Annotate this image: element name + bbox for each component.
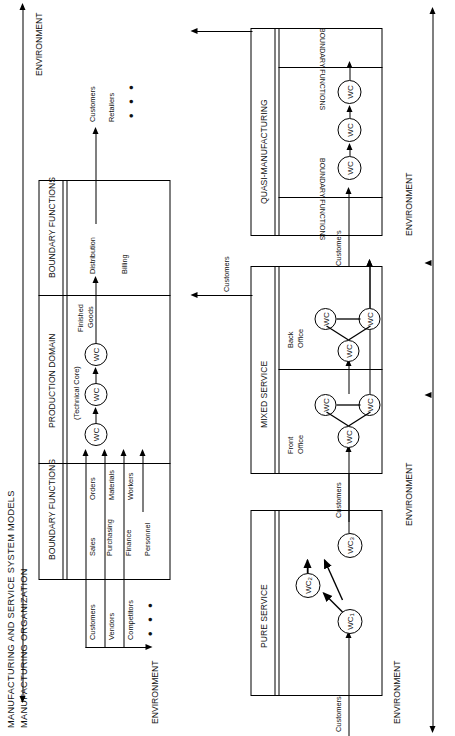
boundary-function-sales: Sales bbox=[88, 538, 96, 557]
figure-title: MANUFACTURING AND SERVICE SYSTEM MODELS bbox=[6, 490, 16, 728]
environment-actor-vendors: Vendors bbox=[107, 613, 115, 640]
quasi-customers-label: Customers bbox=[334, 230, 342, 266]
flow-label-orders: Orders bbox=[88, 477, 96, 500]
panel-divider-2 bbox=[38, 295, 170, 296]
quasi-boundary-functions-in: BOUNDARY FUNCTIONS bbox=[318, 158, 325, 238]
pure-service-links bbox=[250, 510, 382, 696]
environment-actor-competitors: Competitors bbox=[126, 600, 134, 640]
environment-label-right-bottom: ENVIRONMENT bbox=[404, 462, 413, 526]
work-center-label: WC bbox=[91, 428, 100, 441]
quasi-manufacturing-frame bbox=[250, 28, 382, 236]
work-center-label: WC bbox=[345, 161, 354, 174]
boundary-function-personnel: Personnel bbox=[143, 523, 151, 556]
boundary-function-purchasing: Purchasing bbox=[105, 519, 113, 556]
work-center-quasi-3: WC bbox=[337, 80, 361, 104]
flow-label-finished: Finished bbox=[76, 304, 84, 332]
flow-label-goods: Goods bbox=[86, 306, 94, 328]
flow-label-workers: Workers bbox=[126, 473, 134, 500]
quasi-boundary-divider-right bbox=[278, 67, 382, 68]
mixed-service-customers-in-label: Customers bbox=[334, 482, 342, 518]
flow-label-materials: Materials bbox=[107, 470, 115, 500]
work-center-label: WC bbox=[91, 388, 100, 401]
work-center-quasi-1: WC bbox=[337, 156, 361, 180]
work-center-quasi-2: WC bbox=[337, 118, 361, 142]
mixed-service-customers-out-label: Customers bbox=[222, 256, 230, 292]
panel-label-inbound-boundary: BOUNDARY FUNCTIONS bbox=[47, 459, 56, 560]
environment-actors-ellipsis-out: • • • bbox=[124, 82, 137, 118]
boundary-function-finance: Finance bbox=[124, 530, 132, 556]
work-center-label: WC bbox=[345, 85, 354, 98]
pure-service-customers-label: Customers bbox=[334, 696, 342, 732]
environment-actor-customers-out: Customers bbox=[88, 86, 96, 122]
quasi-manufacturing-title: QUASI-MANUFACTURING bbox=[259, 99, 268, 204]
quasi-boundary-divider-left bbox=[278, 197, 382, 198]
technical-core-label: (Technical Core) bbox=[72, 366, 80, 420]
environment-label-right-middle: ENVIRONMENT bbox=[404, 172, 413, 236]
environment-actor-customers: Customers bbox=[88, 604, 96, 640]
environment-label-right-top: ENVIRONMENT bbox=[34, 12, 43, 76]
environment-actors-ellipsis: • • • bbox=[143, 600, 156, 636]
environment-label-left-top: ENVIRONMENT bbox=[150, 660, 159, 724]
figure-canvas: MANUFACTURING AND SERVICE SYSTEM MODELS … bbox=[0, 0, 455, 736]
boundary-function-distribution: Distribution bbox=[88, 237, 96, 274]
panel-label-production-domain: PRODUCTION DOMAIN bbox=[47, 333, 56, 428]
panel-caption-rule-2 bbox=[66, 180, 67, 580]
panel-caption-rule bbox=[62, 180, 63, 580]
work-center-label: WC bbox=[345, 123, 354, 136]
work-center-mfg-2: WC bbox=[84, 383, 107, 406]
boundary-function-billing: Billing bbox=[120, 254, 128, 274]
work-center-label: WC bbox=[91, 348, 100, 361]
panel-label-outbound-boundary: BOUNDARY FUNCTIONS bbox=[47, 177, 56, 278]
work-center-mfg-1: WC bbox=[84, 423, 107, 446]
quasi-caption-rule bbox=[274, 28, 275, 236]
quasi-boundary-functions-out: BOUNDARY FUNCTIONS bbox=[318, 28, 325, 108]
quasi-caption-rule-2 bbox=[278, 28, 279, 236]
environment-label-left-bottom: ENVIRONMENT bbox=[392, 660, 401, 724]
rotated-figure-stage: MANUFACTURING AND SERVICE SYSTEM MODELS … bbox=[0, 0, 455, 736]
environment-actor-retailers: Retailers bbox=[107, 93, 115, 122]
figure-subtitle: MANUFACTURING ORGANIZATION bbox=[19, 568, 29, 728]
work-center-mfg-3: WC bbox=[84, 343, 107, 366]
